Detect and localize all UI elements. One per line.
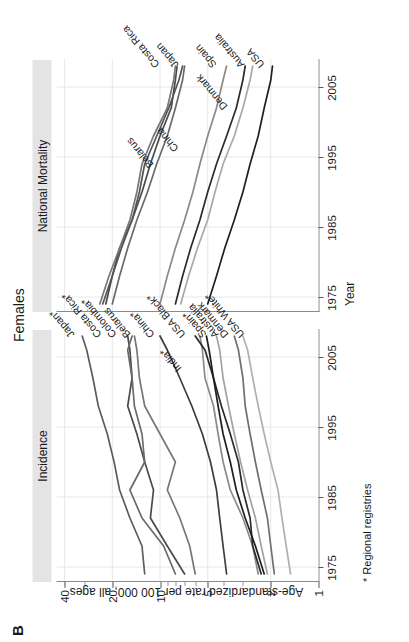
x-axis-title: Year bbox=[342, 282, 356, 306]
y-axis-title: Age-standardized rate per 100 000, all a… bbox=[56, 585, 316, 599]
plot-area-mortality bbox=[56, 59, 319, 312]
x-tick-label: 1975 bbox=[325, 555, 337, 581]
plot-svg bbox=[56, 59, 318, 311]
series-line bbox=[99, 66, 175, 304]
x-tick-mark bbox=[318, 227, 323, 228]
x-tick-label: 1995 bbox=[325, 145, 337, 171]
panel-letter: B bbox=[8, 625, 25, 636]
plot-area-incidence bbox=[56, 329, 319, 582]
series-line bbox=[206, 336, 264, 574]
x-tick-label: 1995 bbox=[325, 415, 337, 441]
x-tick-mark bbox=[318, 357, 323, 358]
series-line bbox=[82, 336, 145, 574]
plot-svg bbox=[56, 329, 318, 581]
x-tick-label: 1975 bbox=[325, 285, 337, 311]
panel-header-mortality: National Mortality bbox=[32, 60, 51, 312]
x-tick-label: 1985 bbox=[325, 215, 337, 241]
x-tick-mark bbox=[318, 497, 323, 498]
x-tick-mark bbox=[318, 567, 323, 568]
series-line bbox=[175, 66, 245, 304]
x-tick-mark bbox=[318, 427, 323, 428]
series-line bbox=[127, 336, 175, 574]
y-tick-mark bbox=[318, 582, 319, 588]
footnote: * Regional registries bbox=[360, 484, 372, 582]
figure-title: Females bbox=[10, 288, 26, 342]
x-tick-label: 2005 bbox=[325, 75, 337, 101]
x-tick-label: 1985 bbox=[325, 485, 337, 511]
x-tick-mark bbox=[318, 157, 323, 158]
series-line bbox=[160, 336, 227, 574]
series-line bbox=[112, 66, 184, 304]
panel-header-incidence: Incidence bbox=[32, 330, 51, 582]
figure-stage: B Females Incidence National Mortality 1… bbox=[0, 0, 409, 642]
x-tick-label: 2005 bbox=[325, 345, 337, 371]
x-tick-mark bbox=[318, 87, 323, 88]
x-tick-mark bbox=[318, 297, 323, 298]
